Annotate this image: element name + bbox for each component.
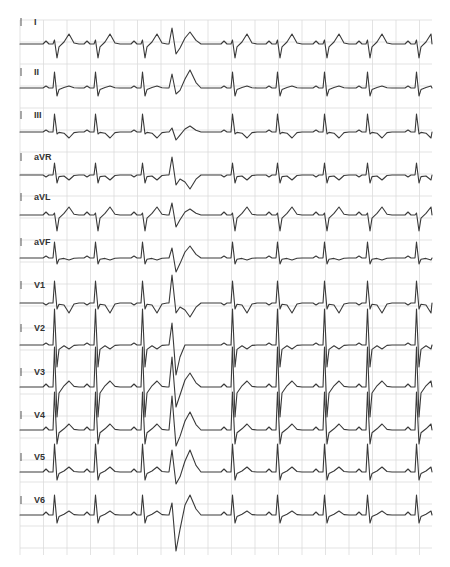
lead-label-ii: II xyxy=(34,67,39,77)
lead-trace-v6 xyxy=(20,495,432,551)
lead-labels: IIIIIIaVRaVLaVFV1V2V3V4V5V6 xyxy=(21,17,52,505)
ecg-grid xyxy=(20,20,432,555)
lead-trace-avr xyxy=(20,157,432,189)
lead-label-v6: V6 xyxy=(34,495,45,505)
lead-trace-v3 xyxy=(20,347,432,417)
lead-label-v2: V2 xyxy=(34,323,45,333)
lead-trace-iii xyxy=(20,114,432,140)
lead-label-v1: V1 xyxy=(34,280,45,290)
lead-trace-i xyxy=(20,28,432,58)
lead-trace-v5 xyxy=(20,444,432,484)
lead-label-avl: aVL xyxy=(34,192,51,202)
lead-trace-v2 xyxy=(20,309,432,375)
lead-trace-v1 xyxy=(20,275,432,317)
lead-label-v3: V3 xyxy=(34,367,45,377)
lead-trace-avl xyxy=(20,203,432,231)
lead-label-iii: III xyxy=(34,110,42,120)
lead-traces xyxy=(20,28,432,551)
lead-label-avf: aVF xyxy=(34,237,51,247)
lead-trace-ii xyxy=(20,70,432,96)
lead-label-v4: V4 xyxy=(34,410,45,420)
lead-trace-avf xyxy=(20,242,432,272)
lead-label-avr: aVR xyxy=(34,152,52,162)
ecg-chart: IIIIIIaVRaVLaVFV1V2V3V4V5V6 xyxy=(0,0,450,567)
lead-label-i: I xyxy=(34,17,37,27)
lead-label-v5: V5 xyxy=(34,452,45,462)
